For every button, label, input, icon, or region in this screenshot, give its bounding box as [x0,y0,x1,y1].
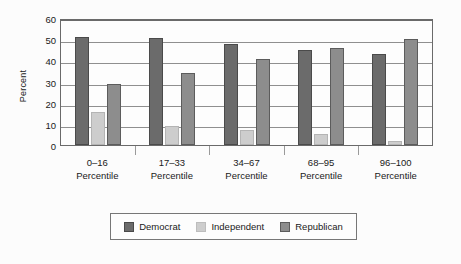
bar-republican [107,84,121,145]
group-separator [284,146,285,155]
bar-independent [240,130,254,145]
y-axis-title: Percent [16,22,30,150]
legend-swatch-icon [196,222,206,232]
x-tick-label-unit: Percentile [358,169,433,182]
x-tick-label-range: 17–33 [159,157,185,168]
legend-label: Republican [295,221,343,232]
y-tick-label: 50 [45,35,56,46]
bar-democrat [149,38,163,145]
bar-groups [61,21,432,145]
group-separators [60,146,433,155]
x-tick-label: 17–33Percentile [135,156,210,182]
legend-item-republican: Republican [280,221,343,232]
x-tick-label-range: 0–16 [87,157,108,168]
bar-independent [91,112,105,145]
bar-independent [165,126,179,145]
legend-item-democrat: Democrat [124,221,180,232]
legend-swatch-icon [280,222,290,232]
bar-independent [388,141,402,145]
group-separator [358,146,359,155]
x-tick-label-range: 96–100 [380,157,412,168]
bar-republican [181,73,195,145]
x-tick-label-unit: Percentile [135,169,210,182]
group-separator [135,146,136,155]
x-axis-tick-labels: 0–16Percentile17–33Percentile34–67Percen… [60,156,433,182]
y-tick-label: 20 [45,98,56,109]
bar-group [284,21,358,145]
y-tick-label: 30 [45,77,56,88]
x-tick-label-range: 34–67 [233,157,259,168]
bar-democrat [224,44,238,145]
x-tick-label-unit: Percentile [60,169,135,182]
bar-democrat [298,50,312,145]
x-tick-label-unit: Percentile [209,169,284,182]
legend-label: Independent [211,221,264,232]
bar-group [135,21,209,145]
bar-group [209,21,283,145]
x-tick-label-unit: Percentile [284,169,359,182]
x-tick-label-range: 68–95 [308,157,334,168]
y-axis-title-text: Percent [18,70,28,102]
y-tick-label: 0 [51,141,56,152]
group-separator [209,146,210,155]
y-tick-label: 10 [45,119,56,130]
y-tick-label: 60 [45,14,56,25]
legend-item-independent: Independent [196,221,264,232]
x-tick-label: 34–67Percentile [209,156,284,182]
bar-republican [404,39,418,145]
bar-independent [314,134,328,145]
bar-democrat [75,37,89,145]
y-tick-label: 40 [45,56,56,67]
bar-republican [330,48,344,145]
x-tick-label: 96–100Percentile [358,156,433,182]
x-tick-label: 68–95Percentile [284,156,359,182]
bar-democrat [372,54,386,145]
bar-group [358,21,432,145]
y-axis-tick-labels: 6050403020100 [32,14,56,146]
bar-group [61,21,135,145]
chart-legend: DemocratIndependentRepublican [110,213,357,240]
chart-figure: Percent 6050403020100 0–16Percentile17–3… [0,0,461,264]
legend-label: Democrat [139,221,180,232]
legend-swatch-icon [124,222,134,232]
plot-area [60,19,433,146]
bar-republican [256,59,270,145]
x-tick-label: 0–16Percentile [60,156,135,182]
